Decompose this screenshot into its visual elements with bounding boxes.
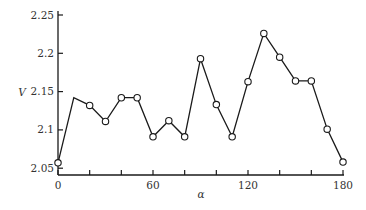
data-point-marker	[118, 95, 124, 101]
data-point-marker	[276, 54, 282, 60]
data-series	[55, 30, 346, 166]
y-tick-label: 2.1	[37, 123, 54, 135]
x-tick-label: 60	[146, 179, 159, 191]
line-chart: 2.052.12.152.22.25 060120180 V α	[0, 0, 366, 210]
y-tick-label: 2.25	[31, 9, 54, 21]
x-tick-label: 180	[333, 179, 353, 191]
y-tick-label: 2.2	[37, 47, 54, 59]
x-tick-label: 0	[55, 179, 62, 191]
data-point-marker	[292, 78, 298, 84]
y-tick-label: 2.05	[31, 162, 54, 174]
data-point-marker	[340, 159, 346, 165]
data-point-marker	[150, 134, 156, 140]
y-axis: 2.052.12.152.22.25	[31, 9, 63, 176]
x-axis-title: α	[197, 188, 204, 200]
data-point-marker	[324, 126, 330, 132]
series-line	[58, 33, 343, 162]
data-point-marker	[181, 134, 187, 140]
data-point-marker	[245, 78, 251, 84]
data-point-marker	[197, 55, 203, 61]
data-point-marker	[166, 118, 172, 124]
data-point-marker	[213, 101, 219, 107]
x-tick-label: 120	[238, 179, 258, 191]
data-point-marker	[102, 118, 108, 124]
data-point-marker	[55, 160, 61, 166]
data-point-marker	[229, 134, 235, 140]
data-point-marker	[261, 30, 267, 36]
data-point-marker	[308, 78, 314, 84]
data-point-marker	[86, 102, 92, 108]
y-axis-title: V	[18, 86, 27, 98]
y-tick-label: 2.15	[31, 85, 54, 97]
data-point-marker	[134, 95, 140, 101]
